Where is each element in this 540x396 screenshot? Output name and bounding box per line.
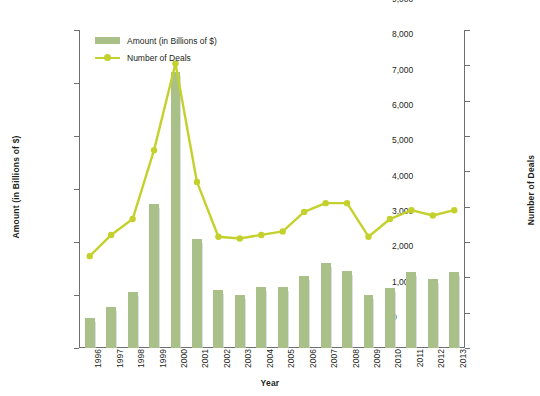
x-axis-tick-label: 2013 (458, 349, 468, 368)
x-axis-tick-label: 2000 (179, 349, 189, 368)
x-axis-tick-label: 2012 (436, 349, 446, 368)
deals-data-point (430, 212, 436, 218)
x-axis-tick-label: 2007 (329, 349, 339, 368)
x-axis-tick-label: 2011 (415, 349, 425, 367)
deals-data-point (280, 228, 286, 234)
deals-data-point (365, 234, 371, 240)
x-axis-labels: 1996199719981999200020012002200320042005… (79, 349, 465, 379)
x-axis-title: Year (0, 378, 540, 388)
deals-data-point (87, 253, 93, 259)
y-right-tick (465, 65, 470, 66)
deals-data-point (258, 232, 264, 238)
y-axis-left-title: Amount (in Billions of $) (11, 102, 21, 272)
y-right-tick (465, 136, 470, 137)
y-right-tick (465, 207, 470, 208)
deals-line-path (90, 64, 455, 257)
deals-data-point (129, 216, 135, 222)
deals-data-point (237, 235, 243, 241)
x-axis-tick-label: 2008 (351, 349, 361, 368)
line-series-number-of-deals (79, 30, 465, 348)
legend-bar-swatch-icon (95, 37, 120, 44)
x-axis-tick-label: 1996 (93, 349, 103, 368)
legend-line-marker-icon (95, 53, 120, 62)
x-axis-tick-label: 2004 (265, 349, 275, 368)
deals-data-point (194, 179, 200, 185)
deals-data-point (387, 216, 393, 222)
legend-item-amount: Amount (in Billions of $) (95, 33, 217, 48)
x-axis-tick-label: 2005 (286, 349, 296, 368)
x-axis-tick-label: 2001 (200, 349, 210, 368)
deals-data-point (301, 209, 307, 215)
legend-label-deals: Number of Deals (127, 53, 191, 63)
y-right-tick (465, 313, 470, 314)
deals-data-point (451, 207, 457, 213)
y-right-tick (465, 277, 470, 278)
legend-item-deals: Number of Deals (95, 50, 217, 65)
legend-label-amount: Amount (in Billions of $) (127, 36, 217, 46)
deals-data-point (322, 200, 328, 206)
y-right-tick (465, 171, 470, 172)
deals-data-point (344, 200, 350, 206)
plot-area (79, 30, 465, 348)
chart-container: Amount (in Billions of $) Number of Deal… (0, 0, 540, 396)
y-right-tick (465, 101, 470, 102)
x-axis-tick-label: 2006 (308, 349, 318, 368)
x-axis-tick-label: 1999 (158, 349, 168, 368)
x-axis-tick-label: 2010 (393, 349, 403, 368)
deals-data-point (215, 234, 221, 240)
x-axis-tick-label: 2009 (372, 349, 382, 368)
y-right-tick-label: 9,000 (392, 0, 413, 4)
deals-data-point (108, 232, 114, 238)
deals-marker-group (87, 60, 458, 259)
y-axis-right-title: Number of Deals (526, 115, 536, 265)
x-axis-tick-label: 2002 (222, 349, 232, 368)
chart-legend: Amount (in Billions of $) Number of Deal… (95, 33, 217, 67)
x-axis-tick-label: 2003 (243, 349, 253, 368)
deals-data-point (151, 147, 157, 153)
x-axis-tick-label: 1997 (115, 349, 125, 368)
deals-data-point (408, 207, 414, 213)
x-axis-tick-label: 1998 (136, 349, 146, 368)
y-right-tick (465, 30, 470, 31)
y-right-tick (465, 242, 470, 243)
